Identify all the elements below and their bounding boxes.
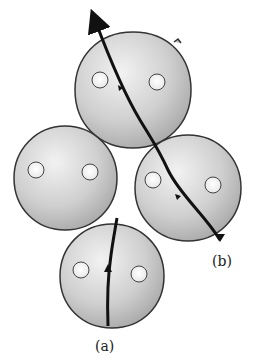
- diagram-canvas: (b) (a): [0, 0, 253, 362]
- particle-right: [135, 135, 241, 241]
- pore-icon: [205, 177, 221, 193]
- pore-icon: [145, 172, 161, 188]
- pore-icon: [131, 266, 147, 282]
- label-a: (a): [95, 338, 114, 354]
- pore-icon: [92, 72, 108, 88]
- pore-icon: [73, 262, 89, 278]
- pore-icon: [82, 164, 98, 180]
- particle-left: [14, 126, 117, 230]
- particle-top: [75, 32, 191, 148]
- pore-icon: [149, 74, 165, 90]
- label-b: (b): [212, 253, 232, 269]
- pore-icon: [28, 162, 44, 178]
- tail-arrow-icon: [215, 234, 225, 242]
